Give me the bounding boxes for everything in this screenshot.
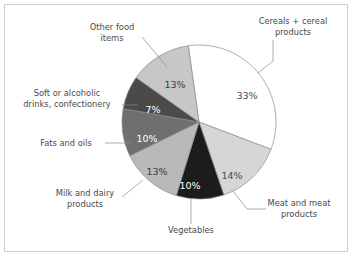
pie-chart-canvas: 33%14%10%13%10%7%13% Cereals + cerealpro…: [0, 0, 352, 256]
category-label-line: Other food: [90, 22, 135, 32]
slice-category-label: Vegetables: [168, 225, 214, 235]
category-label-line: items: [100, 33, 123, 43]
slice-percent-label: 7%: [145, 104, 160, 115]
slice-percent-label: 14%: [221, 170, 242, 181]
slice-category-label: Soft or alcoholicdrinks, confectionery: [23, 88, 111, 109]
category-label-line: Soft or alcoholic: [34, 88, 101, 98]
slice-percent-label: 13%: [164, 79, 185, 90]
leader-line: [233, 191, 266, 209]
slice-percent-label: 10%: [136, 133, 157, 144]
slice-category-label: Meat and meatproducts: [267, 198, 331, 219]
slice-category-label: Other fooditems: [90, 22, 135, 43]
leader-line: [122, 180, 143, 197]
pie-slices-group: [122, 45, 276, 199]
pie-chart-figure: 33%14%10%13%10%7%13% Cereals + cerealpro…: [0, 0, 352, 256]
category-label-line: Fats and oils: [40, 138, 92, 148]
category-label-line: products: [275, 27, 311, 37]
slice-category-label: Cereals + cerealproducts: [259, 16, 328, 37]
category-label-line: drinks, confectionery: [23, 99, 111, 109]
leader-line: [258, 40, 273, 73]
category-label-line: products: [281, 209, 317, 219]
category-label-line: Meat and meat: [267, 198, 331, 208]
category-label-line: Vegetables: [168, 225, 214, 235]
category-label-line: products: [67, 199, 103, 209]
slice-category-label: Milk and dairyproducts: [56, 188, 115, 209]
category-label-line: Cereals + cereal: [259, 16, 328, 26]
slice-percent-label: 33%: [236, 90, 257, 101]
category-label-line: Milk and dairy: [56, 188, 115, 198]
slice-category-label: Fats and oils: [40, 138, 92, 148]
slice-percent-label: 10%: [179, 180, 200, 191]
slice-percent-label: 13%: [146, 166, 167, 177]
